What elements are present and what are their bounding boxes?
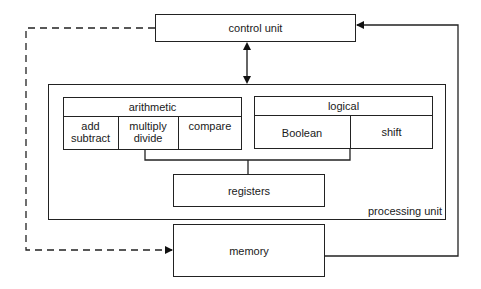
arrowhead-up-icon — [243, 42, 251, 50]
add-label: add — [63, 120, 118, 132]
logical-cell-boolean: Boolean — [254, 116, 350, 149]
subtract-label: subtract — [63, 132, 118, 144]
memory-box: memory — [173, 224, 325, 277]
registers-label: registers — [228, 185, 270, 197]
arithmetic-cell-add-subtract: add subtract — [63, 120, 118, 144]
logical-title: logical — [254, 97, 433, 115]
multiply-label: multiply — [118, 120, 178, 132]
control-unit-label: control unit — [229, 22, 283, 34]
arrowhead-down-icon — [243, 76, 251, 84]
arithmetic-cell-multiply-divide: multiply divide — [118, 120, 178, 144]
compare-label: compare — [178, 120, 242, 132]
divide-label: divide — [118, 132, 178, 144]
logical-cell-shift: shift — [350, 116, 433, 147]
processing-unit-label: processing unit — [366, 205, 442, 217]
control-unit-box: control unit — [155, 14, 356, 42]
arithmetic-title: arithmetic — [63, 98, 242, 116]
arithmetic-divider — [63, 116, 242, 117]
memory-label: memory — [229, 245, 269, 257]
arithmetic-cell-compare: compare — [178, 120, 242, 132]
registers-box: registers — [173, 174, 325, 207]
